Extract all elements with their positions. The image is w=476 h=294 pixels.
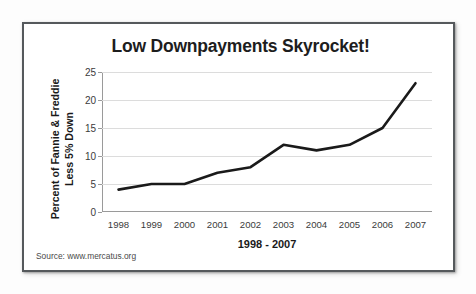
- y-axis-title-line-1: Percent of Fannie & Freddie: [49, 69, 63, 229]
- x-axis-tick-label: 2000: [174, 219, 195, 230]
- chart-figure: Low Downpayments Skyrocket! Percent of F…: [0, 0, 476, 294]
- data-series-line: [102, 72, 432, 212]
- chart-title: Low Downpayments Skyrocket!: [24, 36, 457, 57]
- x-axis-tick-label: 2004: [306, 219, 327, 230]
- y-axis-tick-label: 15: [85, 123, 96, 134]
- x-axis-tick-label: 2007: [405, 219, 426, 230]
- x-axis-title: 1998 - 2007: [102, 238, 432, 250]
- x-axis-tick-label: 2002: [240, 219, 261, 230]
- y-axis-title-line-2: Less 5% Down: [63, 69, 77, 229]
- y-axis-tick-label: 10: [85, 151, 96, 162]
- x-axis-tick-label: 1998: [108, 219, 129, 230]
- y-axis-tick-label: 25: [85, 67, 96, 78]
- y-axis-tick-mark: [98, 212, 102, 213]
- x-axis-tick-label: 1999: [141, 219, 162, 230]
- plot-area: 0510152025 19981999200020012002200320042…: [102, 72, 432, 212]
- y-axis-title: Percent of Fannie & Freddie Less 5% Down: [49, 69, 83, 229]
- x-axis-tick-label: 2006: [372, 219, 393, 230]
- y-axis-tick-label: 5: [90, 179, 96, 190]
- y-axis-tick-label: 0: [90, 207, 96, 218]
- x-axis-tick-label: 2005: [339, 219, 360, 230]
- x-axis-tick-label: 2003: [273, 219, 294, 230]
- y-axis-tick-label: 20: [85, 95, 96, 106]
- source-note: Source: www.mercatus.org: [36, 251, 136, 261]
- x-axis-tick-label: 2001: [207, 219, 228, 230]
- chart-card: Low Downpayments Skyrocket! Percent of F…: [22, 22, 455, 272]
